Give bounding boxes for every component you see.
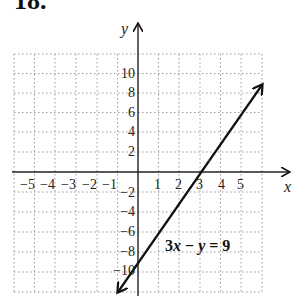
- svg-text:−4: −4: [120, 204, 135, 219]
- svg-text:8: 8: [128, 85, 135, 100]
- svg-text:−4: −4: [40, 177, 55, 192]
- svg-text:−2: −2: [120, 185, 135, 200]
- svg-text:2: 2: [128, 144, 135, 159]
- svg-text:4: 4: [218, 177, 225, 192]
- equation-line: [209, 85, 262, 161]
- svg-text:5: 5: [237, 177, 244, 192]
- svg-text:1: 1: [154, 177, 161, 192]
- y-axis-label: y: [119, 20, 129, 38]
- svg-text:−3: −3: [61, 177, 76, 192]
- svg-text:−2: −2: [82, 177, 97, 192]
- coordinate-plane: x y −5 −4 −3 −2 −1 1 2 3 4 5 10 8 6 4 2 …: [0, 0, 301, 304]
- svg-text:−8: −8: [120, 244, 135, 259]
- svg-text:−1: −1: [102, 177, 117, 192]
- svg-text:4: 4: [128, 124, 135, 139]
- svg-text:6: 6: [128, 105, 135, 120]
- equation-label: 3x − y = 9: [165, 237, 230, 255]
- x-axis-label: x: [283, 178, 291, 195]
- svg-text:−5: −5: [20, 177, 35, 192]
- svg-text:−6: −6: [120, 224, 135, 239]
- svg-text:10: 10: [121, 66, 135, 81]
- svg-text:2: 2: [175, 177, 182, 192]
